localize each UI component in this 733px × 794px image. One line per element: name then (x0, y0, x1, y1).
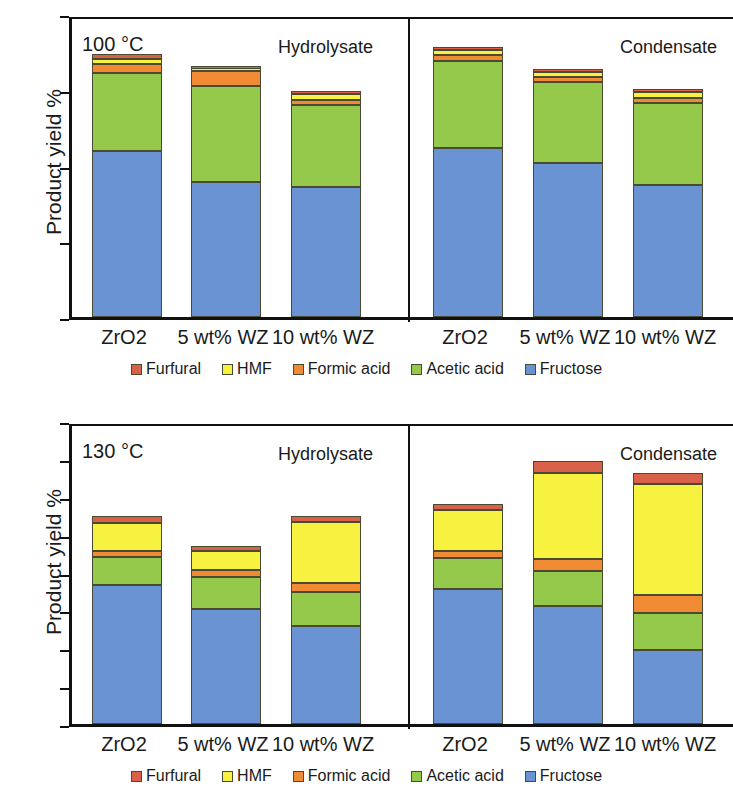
legend-item: Acetic acid (411, 360, 503, 378)
bar-segment-formic-acid (633, 98, 703, 103)
bar-segment-formic-acid (433, 551, 503, 559)
bar-segment-acetic-acid (92, 73, 162, 152)
stacked-bar (433, 421, 503, 724)
legend-swatch-icon (222, 771, 233, 782)
bar-segment-fructose (433, 589, 503, 724)
x-axis-label: ZrO2 (101, 326, 147, 349)
legend-swatch-icon (131, 771, 142, 782)
bar-segment-furfural (433, 47, 503, 50)
bar-segment-formic-acid (191, 570, 261, 577)
bar-segment-formic-acid (291, 583, 361, 592)
bar-segment-formic-acid (533, 559, 603, 571)
x-axis-label: 10 wt% WZ (272, 733, 374, 756)
legend-label: Fructose (540, 360, 602, 378)
bar-segment-formic-acid (191, 71, 261, 86)
bar-segment-fructose (291, 187, 361, 317)
bar-segment-furfural (191, 66, 261, 69)
bar-segment-acetic-acid (191, 86, 261, 182)
y-tick-mark (60, 688, 69, 690)
y-tick-mark (60, 92, 69, 94)
y-tick-mark (60, 726, 69, 728)
bar-segment-furfural (633, 473, 703, 484)
y-axis-ticks-top: 0481216 (0, 0, 69, 320)
stacked-bar (92, 14, 162, 317)
bar-segment-formic-acid (433, 55, 503, 62)
legend-label: HMF (237, 767, 272, 785)
legend-label: Acetic acid (426, 360, 503, 378)
x-axis-label: ZrO2 (442, 326, 488, 349)
y-axis-ticks-bottom: 0510152025303540 (0, 404, 69, 727)
x-axis-label: 10 wt% WZ (272, 326, 374, 349)
bar-segment-acetic-acid (191, 577, 261, 609)
bar-segment-formic-acid (291, 100, 361, 105)
bar-segment-hmf (291, 522, 361, 583)
x-axis-label: 5 wt% WZ (177, 733, 268, 756)
stacked-bar (191, 14, 261, 317)
plot-area-top: 100 °C Hydrolysate Condensate (69, 17, 733, 320)
bar-segment-hmf (92, 523, 162, 551)
bar-segment-acetic-acid (533, 571, 603, 606)
legend-label: HMF (237, 360, 272, 378)
x-axis-label: ZrO2 (442, 733, 488, 756)
bar-segment-fructose (291, 626, 361, 724)
legend-label: Formic acid (308, 767, 391, 785)
legend-item: HMF (222, 360, 272, 378)
legend-item: Furfural (131, 767, 201, 785)
x-axis-label: ZrO2 (101, 733, 147, 756)
bar-segment-formic-acid (533, 77, 603, 82)
bar-segment-fructose (633, 650, 703, 724)
bar-segment-furfural (533, 461, 603, 472)
stacked-bar (533, 421, 603, 724)
stacked-bar (92, 421, 162, 724)
bar-segment-furfural (533, 69, 603, 72)
bar-segment-hmf (633, 484, 703, 595)
x-axis-label: 5 wt% WZ (519, 733, 610, 756)
bar-segment-acetic-acid (633, 613, 703, 649)
legend-item: Furfural (131, 360, 201, 378)
stacked-bar (633, 14, 703, 317)
legend-swatch-icon (222, 364, 233, 375)
legend-label: Furfural (146, 767, 201, 785)
legend-item: Acetic acid (411, 767, 503, 785)
legend-item: Formic acid (293, 767, 391, 785)
y-tick-mark (60, 612, 69, 614)
bar-segment-fructose (433, 148, 503, 317)
legend-item: HMF (222, 767, 272, 785)
bar-segment-furfural (291, 516, 361, 521)
bar-segment-fructose (633, 185, 703, 317)
bar-segment-fructose (191, 609, 261, 724)
legend-swatch-icon (131, 364, 142, 375)
bar-segment-hmf (433, 510, 503, 550)
bar-segment-acetic-acid (291, 105, 361, 187)
bar-segment-formic-acid (633, 595, 703, 613)
legend-label: Furfural (146, 360, 201, 378)
y-tick-mark (60, 650, 69, 652)
legend-swatch-icon (525, 364, 536, 375)
bar-segment-fructose (92, 151, 162, 317)
bar-segment-hmf (433, 50, 503, 55)
legend-label: Formic acid (308, 360, 391, 378)
legend-swatch-icon (411, 364, 422, 375)
bar-segment-fructose (533, 606, 603, 724)
stacked-bar (433, 14, 503, 317)
bar-segment-fructose (191, 182, 261, 317)
bar-segment-acetic-acid (291, 592, 361, 625)
legend-swatch-icon (293, 771, 304, 782)
bar-segment-hmf (92, 59, 162, 64)
y-tick-mark (60, 168, 69, 170)
stacked-bar (291, 14, 361, 317)
x-axis-label: 5 wt% WZ (519, 326, 610, 349)
stacked-bar (633, 421, 703, 724)
x-axis-label: 10 wt% WZ (614, 733, 716, 756)
y-tick-mark (60, 499, 69, 501)
y-tick-mark (60, 16, 69, 18)
legend-label: Acetic acid (426, 767, 503, 785)
legend-swatch-icon (293, 364, 304, 375)
bar-segment-furfural (191, 546, 261, 551)
bar-segment-acetic-acid (633, 103, 703, 185)
stacked-bar-figure: Product yield % 0481216 100 °C Hydrolysa… (0, 0, 733, 794)
bar-segment-acetic-acid (433, 61, 503, 147)
bar-segment-furfural (291, 91, 361, 94)
stacked-bar (191, 421, 261, 724)
bar-segment-acetic-acid (533, 82, 603, 162)
